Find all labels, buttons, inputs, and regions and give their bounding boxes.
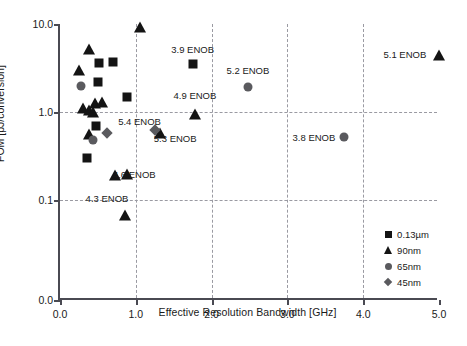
data-point-square — [122, 92, 131, 101]
x-tick-label: 5.0 — [432, 308, 447, 320]
annotation-label: 3.9 ENOB — [171, 43, 214, 54]
x-tick-label: 0.0 — [53, 308, 68, 320]
data-point-triangle — [96, 96, 108, 107]
x-tick — [439, 300, 441, 305]
x-tick — [287, 300, 289, 305]
y-tick — [54, 24, 60, 26]
legend-item: 45nm — [381, 274, 429, 290]
data-point-circle — [88, 136, 97, 145]
y-tick — [54, 300, 60, 302]
data-point-triangle — [119, 210, 131, 221]
y-tick — [54, 200, 60, 202]
data-point-square — [83, 154, 92, 163]
x-axis-title: Effective Resolution Bandwidth [GHz] — [58, 306, 437, 318]
data-point-triangle — [83, 43, 95, 54]
legend-label: 0.13µm — [397, 229, 429, 240]
x-tick-label: 2.0 — [204, 308, 219, 320]
y-axis-title: FOM [pJ/conversion] — [0, 65, 6, 162]
legend-item: 90nm — [381, 242, 429, 258]
x-tick-label: 1.0 — [128, 308, 143, 320]
gridline-vertical — [287, 24, 288, 298]
annotation-label: 5.4 ENOB — [118, 115, 161, 126]
data-point-square — [109, 57, 118, 66]
gridline-vertical — [136, 24, 137, 298]
legend-label: 65nm — [397, 261, 421, 272]
data-point-diamond — [101, 127, 112, 138]
y-tick — [54, 112, 60, 114]
y-tick-label: 1.0 — [38, 106, 53, 118]
data-point-triangle — [433, 49, 445, 60]
square-icon — [381, 231, 395, 238]
legend-label: 90nm — [397, 245, 421, 256]
plot-area: 0.01.02.03.04.05.010.01.00.10.0 3.9 ENOB… — [58, 24, 437, 300]
x-tick — [212, 300, 214, 305]
legend-item: 65nm — [381, 258, 429, 274]
annotation-label: 5.1 ENOB — [383, 48, 426, 59]
annotation-label: 5.2 ENOB — [227, 65, 270, 76]
legend-item: 0.13µm — [381, 226, 429, 242]
y-tick-label: 0.0 — [38, 294, 53, 306]
gridline-vertical — [212, 24, 213, 298]
y-tick-label: 0.1 — [38, 194, 53, 206]
figure: FOM [pJ/conversion] Effective Resolution… — [0, 0, 467, 346]
legend: 0.13µm90nm65nm45nm — [379, 224, 431, 292]
x-tick — [60, 300, 62, 305]
data-point-circle — [340, 132, 349, 141]
data-point-square — [93, 77, 102, 86]
data-point-circle — [243, 83, 252, 92]
x-tick-label: 3.0 — [280, 308, 295, 320]
x-tick-label: 4.0 — [356, 308, 371, 320]
y-tick-label: 10.0 — [33, 18, 53, 30]
data-point-circle — [77, 81, 86, 90]
data-point-triangle — [73, 65, 85, 76]
circle-icon — [381, 263, 395, 270]
triangle-icon — [381, 246, 395, 254]
data-point-square — [188, 60, 197, 69]
data-point-triangle — [134, 21, 146, 32]
data-point-square — [95, 59, 104, 68]
diamond-icon — [381, 279, 395, 285]
gridline-horizontal — [60, 112, 437, 113]
legend-label: 45nm — [397, 277, 421, 288]
x-tick — [136, 300, 138, 305]
annotation-label: 4.6 ENOB — [113, 168, 156, 179]
x-tick — [363, 300, 365, 305]
annotation-label: 4.3 ENOB — [86, 193, 129, 204]
gridline-vertical — [363, 24, 364, 298]
annotation-label: 4.9 ENOB — [174, 90, 217, 101]
annotation-label: 3.8 ENOB — [293, 131, 336, 142]
annotation-label: 5.3 ENOB — [154, 133, 197, 144]
data-point-triangle — [189, 108, 201, 119]
